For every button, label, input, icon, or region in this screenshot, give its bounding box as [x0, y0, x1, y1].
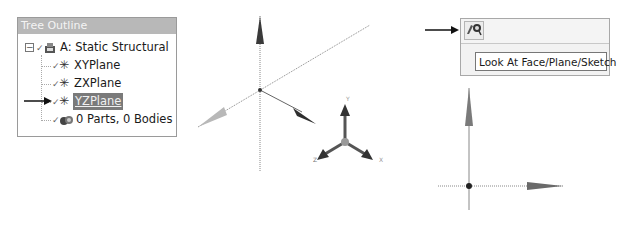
collapse-icon[interactable]: −	[25, 43, 34, 52]
check-icon: ✓	[52, 112, 60, 129]
axis-triad: Y Z X	[305, 92, 395, 172]
plane-icon: ✳	[59, 93, 69, 110]
model-icon	[44, 42, 56, 53]
light-arrow-icon	[198, 107, 227, 127]
tree-item-label: ZXPlane	[74, 75, 121, 92]
origin-point	[466, 183, 472, 189]
parts-icon	[60, 114, 73, 125]
look-at-tooltip: Look At Face/Plane/Sketch	[475, 52, 607, 71]
origin-point	[258, 88, 262, 92]
tree-item-label: A: Static Structural	[60, 39, 169, 56]
plane-viewport	[430, 80, 580, 220]
tree-item-label-selected: YZPlane	[73, 93, 123, 110]
triad-z-arrow-icon	[317, 149, 329, 160]
triad-y-label: Y	[345, 95, 350, 102]
tree-item-label: 0 Parts, 0 Bodies	[76, 111, 172, 128]
pointer-arrow-icon	[423, 25, 463, 35]
up-arrow-icon	[465, 88, 473, 126]
pointer-arrow-icon	[22, 96, 54, 106]
plane-icon: ✳	[59, 57, 69, 74]
tree-guide-line	[41, 55, 42, 121]
triad-y-arrow-icon	[340, 104, 350, 116]
tree-guide-branch	[41, 66, 51, 67]
tree-guide-branch	[41, 84, 51, 85]
right-arrow-icon	[527, 182, 563, 190]
tree-guide-branch	[41, 120, 51, 121]
look-at-icon	[466, 22, 482, 36]
toolbar-row	[461, 19, 609, 44]
tree-item-label: XYPlane	[74, 57, 120, 74]
triad-z-label: Z	[313, 156, 317, 163]
check-icon: ✓	[36, 40, 44, 57]
triad-x-label: X	[379, 156, 383, 163]
up-arrow-icon	[256, 16, 264, 44]
triad-x-arrow-icon	[361, 149, 373, 160]
tree-outline-header: Tree Outline	[18, 18, 176, 34]
plane-icon: ✳	[59, 75, 69, 92]
look-at-button[interactable]	[464, 21, 484, 40]
